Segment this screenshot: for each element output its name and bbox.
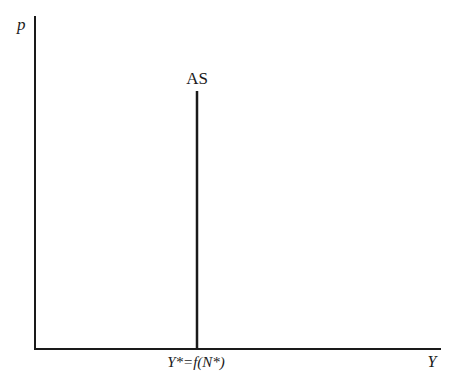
as-curve-label: AS [186,69,208,88]
y-axis-label: p [16,15,26,34]
equilibrium-output-label: Y*=f(N*) [167,354,225,371]
x-axis-label: Y [428,353,439,370]
as-diagram: p AS Y*=f(N*) Y [0,0,452,385]
